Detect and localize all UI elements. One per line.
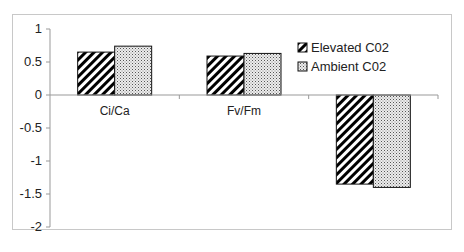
legend-label: Elevated C02 (311, 40, 389, 55)
legend-swatch-icon (298, 62, 307, 71)
category-label: Fv/Fm (227, 104, 261, 118)
y-tick-label: -1 (30, 153, 42, 168)
legend-swatch-icon (298, 43, 307, 52)
bar-elevated (78, 52, 115, 95)
bar-elevated (336, 95, 373, 184)
y-axis: 10.50-0.5-1-1.5-2 (20, 21, 50, 234)
bar-chart: 10.50-0.5-1-1.5-2 Ci/CaFv/Fm Elevated C0… (0, 0, 464, 252)
category-label: Ci/Ca (100, 104, 130, 118)
y-tick-label: -0.5 (20, 120, 42, 135)
bar-ambient (244, 53, 281, 95)
y-tick-label: -2 (30, 219, 42, 234)
y-tick-label: -1.5 (20, 186, 42, 201)
bar-elevated (207, 56, 244, 95)
legend-label: Ambient C02 (311, 59, 386, 74)
y-tick-label: 0 (35, 87, 42, 102)
legend: Elevated C02Ambient C02 (298, 40, 389, 74)
y-tick-label: 1 (35, 21, 42, 36)
y-tick-label: 0.5 (24, 54, 42, 69)
bar-ambient (115, 46, 152, 95)
bar-ambient (373, 95, 410, 187)
category-labels: Ci/CaFv/Fm (100, 104, 261, 118)
